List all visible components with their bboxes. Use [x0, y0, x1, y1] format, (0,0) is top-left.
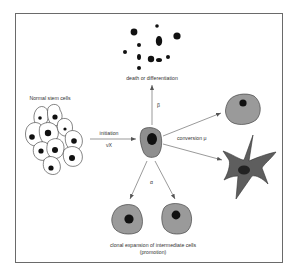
conversion-label: conversion μ [177, 136, 207, 141]
alpha-label: α [150, 180, 153, 185]
malignant-stellate-cell [223, 135, 276, 199]
initiation-label: initiation [99, 131, 118, 136]
death-differentiation-label: death or differentiation [126, 76, 178, 81]
intermediate-cell-left [112, 205, 143, 235]
normal-stem-cells-label: Normal stem cells [29, 96, 70, 101]
malignant-round-cell [226, 94, 261, 125]
beta-label: β [157, 103, 160, 108]
alpha-arrow-right [155, 161, 175, 199]
clonal-expansion-label: clonal expansion of intermediate cells [110, 243, 196, 248]
conversion-arrow-round [163, 113, 221, 136]
alpha-arrow-left [130, 161, 147, 199]
conversion-arrow-stellate [163, 144, 222, 160]
diagram-canvas [0, 0, 293, 275]
initiated-cell [140, 128, 161, 158]
dead-cells-dots [123, 24, 181, 70]
initiation-rate-label: νX [106, 143, 112, 148]
promotion-label: (promotion) [140, 250, 167, 255]
intermediate-cell-right [162, 204, 192, 235]
